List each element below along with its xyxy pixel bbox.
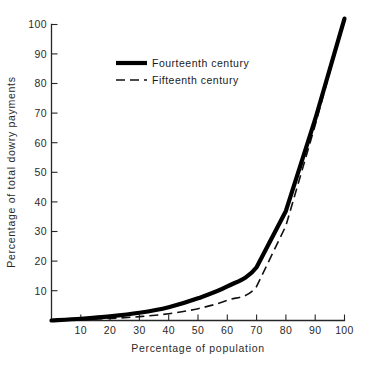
y-tick-label-10: 10 xyxy=(35,285,47,297)
y-tick-label-30: 30 xyxy=(35,225,47,237)
y-tick-label-70: 70 xyxy=(35,107,47,119)
x-tick-label-30: 30 xyxy=(133,324,145,336)
y-tick-label-80: 80 xyxy=(35,77,47,89)
legend-label-fourteenth-century: Fourteenth century xyxy=(152,57,249,69)
x-tick-label-80: 80 xyxy=(280,324,292,336)
x-tick-label-10: 10 xyxy=(75,324,87,336)
y-tick-label-60: 60 xyxy=(35,137,47,149)
y-tick-label-50: 50 xyxy=(35,166,47,178)
x-tick-label-40: 40 xyxy=(162,324,174,336)
y-tick-label-90: 90 xyxy=(35,48,47,60)
y-tick-marks xyxy=(52,25,58,291)
x-tick-labels: 10 20 30 40 50 60 70 80 90 100 xyxy=(75,324,354,336)
y-tick-label-20: 20 xyxy=(35,255,47,267)
x-tick-label-50: 50 xyxy=(192,324,204,336)
x-tick-label-100: 100 xyxy=(335,324,354,336)
x-tick-label-60: 60 xyxy=(221,324,233,336)
y-tick-labels: 10 20 30 40 50 60 70 80 90 100 xyxy=(28,18,47,296)
x-axis-title: Percentage of population xyxy=(131,342,265,354)
x-tick-label-90: 90 xyxy=(309,324,321,336)
y-tick-label-100: 100 xyxy=(28,18,47,30)
x-tick-label-20: 20 xyxy=(104,324,116,336)
line-chart: 10 20 30 40 50 60 70 80 90 100 10 20 30 … xyxy=(0,0,368,368)
legend: Fourteenth century Fifteenth century xyxy=(116,57,249,86)
y-axis-title: Percentage of total dowry payments xyxy=(5,76,17,267)
y-tick-label-40: 40 xyxy=(35,196,47,208)
x-tick-label-70: 70 xyxy=(250,324,262,336)
legend-label-fifteenth-century: Fifteenth century xyxy=(152,74,239,86)
